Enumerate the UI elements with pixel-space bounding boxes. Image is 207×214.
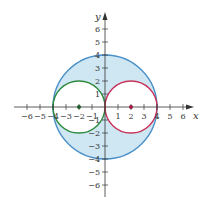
x-tick-label: −5 <box>34 112 46 121</box>
x-tick-label: −4 <box>47 112 59 121</box>
y-tick-label: 1 <box>95 90 100 99</box>
right-center-point <box>129 105 133 109</box>
x-tick-label: −2 <box>73 112 85 121</box>
x-tick-label: 1 <box>115 112 120 121</box>
x-tick-label: 3 <box>141 112 146 121</box>
y-tick-label: 6 <box>95 25 100 34</box>
y-tick-label: −2 <box>88 129 100 138</box>
x-tick-label: 6 <box>180 112 185 121</box>
x-tick-label: −6 <box>21 112 33 121</box>
y-tick-label: 5 <box>95 38 100 47</box>
y-tick-label: −4 <box>88 155 100 164</box>
y-tick-label: −5 <box>88 168 100 177</box>
y-tick-label: 2 <box>95 77 100 86</box>
left-center-point <box>77 105 81 109</box>
x-tick-label: 5 <box>167 112 172 121</box>
y-axis-label: y <box>94 11 101 22</box>
y-tick-label: −6 <box>88 181 100 190</box>
y-tick-label: 3 <box>95 64 100 73</box>
x-tick-label: −3 <box>60 112 72 121</box>
y-tick-label: −3 <box>88 142 100 151</box>
x-tick-label: 4 <box>154 112 159 121</box>
diagram-canvas: −6 −5 −4 −3 −2 −1 1 2 3 4 5 6 x 6 <box>0 0 207 214</box>
x-tick-label: 2 <box>128 112 133 121</box>
y-tick-label: 4 <box>95 51 100 60</box>
y-tick-label: −1 <box>88 116 100 125</box>
x-axis-label: x <box>193 110 199 121</box>
